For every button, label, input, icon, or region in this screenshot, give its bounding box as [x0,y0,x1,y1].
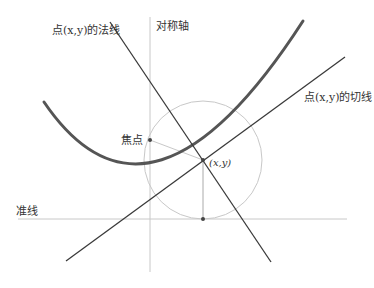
normal-label: 点(x,y)的法线 [52,23,121,37]
axis-label: 对称轴 [156,19,189,33]
parabola-diagram: 对称轴 点(x,y)的法线 点(x,y)的切线 焦点 (x,y) 准线 [0,0,374,288]
point-label: (x,y) [209,157,231,168]
curve-point [201,158,205,162]
focus-label: 焦点 [121,134,143,147]
diagram-svg: 对称轴 点(x,y)的法线 点(x,y)的切线 焦点 (x,y) 准线 [0,0,374,288]
directrix-foot-point [201,217,205,221]
focus-point [148,138,152,142]
directrix-label: 准线 [16,204,38,218]
parabola-curve [44,21,303,164]
tangent-label: 点(x,y)的切线 [304,90,373,104]
